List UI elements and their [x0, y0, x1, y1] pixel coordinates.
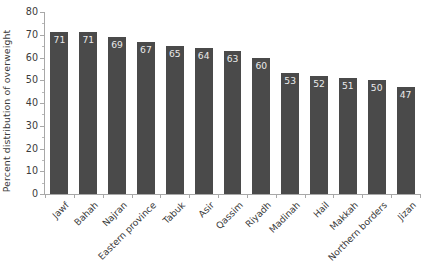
- y-axis-tick-label: 10: [26, 166, 38, 176]
- x-axis-tick: [45, 194, 46, 198]
- y-axis-tick-label: 30: [26, 121, 38, 131]
- y-axis-tick-label: 80: [26, 7, 38, 17]
- x-axis-tick-label: Eastern province: [96, 200, 158, 262]
- bar-value-label: 47: [397, 90, 415, 100]
- y-axis-tick: [40, 149, 44, 150]
- x-axis-tick: [276, 194, 277, 198]
- x-axis-tick-label-text: Bahah: [73, 200, 101, 228]
- x-axis-tick-label: Tabuk: [161, 200, 187, 226]
- x-axis-tick: [103, 194, 104, 198]
- x-axis-tick-label: Hail: [312, 200, 332, 220]
- x-axis-tick-label-text: Jizan: [395, 200, 417, 222]
- y-axis-tick-label: 60: [26, 53, 38, 63]
- bar-value-label: 65: [166, 49, 184, 59]
- bar[interactable]: 50: [368, 80, 386, 194]
- y-axis-tick: [40, 126, 44, 127]
- x-axis-tick-label-text: Tabuk: [161, 200, 187, 226]
- x-axis-tick-label: Jawf: [51, 200, 72, 221]
- y-axis-tick: [40, 58, 44, 59]
- bar[interactable]: 71: [79, 32, 97, 194]
- bar-value-label: 53: [281, 76, 299, 86]
- y-axis-minor-tick: [42, 183, 44, 184]
- y-axis-tick: [40, 194, 44, 195]
- bar-value-label: 69: [108, 40, 126, 50]
- bar[interactable]: 69: [108, 37, 126, 194]
- x-axis-tick: [74, 194, 75, 198]
- y-axis-minor-tick: [42, 92, 44, 93]
- bar[interactable]: 63: [224, 51, 242, 194]
- bar-value-label: 60: [252, 61, 270, 71]
- bar[interactable]: 47: [397, 87, 415, 194]
- x-axis-tick: [333, 194, 334, 198]
- bar[interactable]: 65: [166, 46, 184, 194]
- y-axis-tick: [40, 171, 44, 172]
- bar-value-label: 71: [50, 35, 68, 45]
- x-axis-tick-label-text: Hail: [312, 200, 332, 220]
- bar[interactable]: 52: [310, 76, 328, 194]
- bar-chart: Percent distribution of overweight 01020…: [0, 0, 425, 279]
- bar-value-label: 63: [224, 54, 242, 64]
- y-axis-tick-label: 50: [26, 75, 38, 85]
- plot-area: 0102030405060708071716967656463605352515…: [45, 12, 420, 194]
- y-axis-tick: [40, 35, 44, 36]
- x-axis-tick: [247, 194, 248, 198]
- x-axis-tick-labels: JawfBahahNajranEastern provinceTabukAsir…: [45, 200, 425, 279]
- y-axis-tick-label: 0: [32, 189, 38, 199]
- x-axis-tick-label: Asir: [196, 200, 215, 219]
- bar-value-label: 50: [368, 83, 386, 93]
- y-axis-tick: [40, 12, 44, 13]
- bar-value-label: 52: [310, 79, 328, 89]
- y-axis-tick-label: 40: [26, 98, 38, 108]
- x-axis-tick-label: Qassim: [214, 200, 245, 231]
- y-axis-line: [44, 12, 45, 195]
- bar[interactable]: 60: [252, 58, 270, 195]
- bar[interactable]: 51: [339, 78, 357, 194]
- bar[interactable]: 53: [281, 73, 299, 194]
- y-axis-minor-tick: [42, 114, 44, 115]
- x-axis-tick: [160, 194, 161, 198]
- x-axis-tick-label-text: Eastern province: [96, 200, 158, 262]
- bar-value-label: 67: [137, 45, 155, 55]
- y-axis-minor-tick: [42, 160, 44, 161]
- x-axis-tick: [132, 194, 133, 198]
- x-axis-tick: [218, 194, 219, 198]
- x-axis-tick-label-text: Qassim: [214, 200, 245, 231]
- x-axis-tick-label-text: Jawf: [51, 200, 72, 221]
- bar[interactable]: 67: [137, 42, 155, 194]
- y-axis-tick: [40, 103, 44, 104]
- x-axis-tick: [305, 194, 306, 198]
- x-axis-tick: [362, 194, 363, 198]
- y-axis-minor-tick: [42, 69, 44, 70]
- y-axis-minor-tick: [42, 23, 44, 24]
- y-axis-minor-tick: [42, 137, 44, 138]
- x-axis-line: [44, 194, 421, 195]
- y-axis-title: Percent distribution of overweight: [0, 14, 14, 208]
- y-axis-tick-label: 70: [26, 30, 38, 40]
- x-axis-tick: [189, 194, 190, 198]
- y-axis-minor-tick: [42, 46, 44, 47]
- y-axis-tick-label: 20: [26, 144, 38, 154]
- bar-value-label: 64: [195, 51, 213, 61]
- x-axis-tick-label: Bahah: [73, 200, 101, 228]
- y-axis-tick: [40, 80, 44, 81]
- x-axis-tick-label: Jizan: [395, 200, 417, 222]
- x-axis-tick: [420, 194, 421, 198]
- bar-value-label: 71: [79, 35, 97, 45]
- x-axis-tick-label-text: Asir: [196, 200, 215, 219]
- x-axis-tick: [391, 194, 392, 198]
- bar-value-label: 51: [339, 81, 357, 91]
- bar[interactable]: 64: [195, 48, 213, 194]
- bar[interactable]: 71: [50, 32, 68, 194]
